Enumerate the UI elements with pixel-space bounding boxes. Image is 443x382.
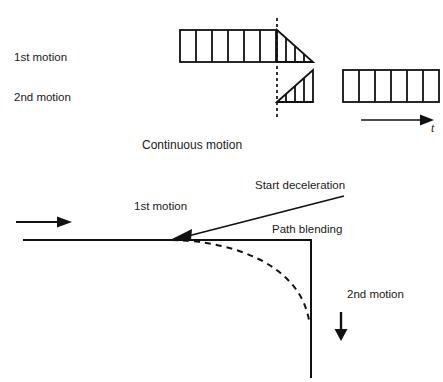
label-start-deceleration: Start deceleration [255,180,345,192]
label-second-motion-path: 2nd motion [347,289,404,301]
dashed-blend-curve [172,240,309,320]
down-arrow-icon [335,329,348,341]
pointer-arrow-icon [170,229,192,240]
second-motion-direction-arrow [335,312,348,341]
label-first-motion-path: 1st motion [134,201,187,213]
label-path-blending: Path blending [272,224,342,236]
path-blending-graphics [0,0,443,382]
travel-direction-arrow [16,217,72,228]
figure-canvas: 1st motion 2nd motion [0,0,443,382]
right-arrow-icon [57,217,72,228]
